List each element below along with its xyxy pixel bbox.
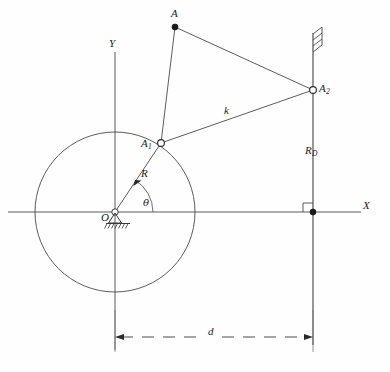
axis-group: [8, 52, 361, 350]
guide-offset-label-RD: RD: [305, 145, 317, 158]
point-label-A1-base: A: [141, 137, 148, 149]
guide-foot-marker: [310, 209, 316, 215]
x-axis-label: X: [363, 200, 370, 211]
guide-offset-label-base: R: [305, 144, 312, 156]
coupler-tip-marker-A: [172, 24, 178, 30]
crank-pin-marker-A1: [158, 140, 165, 147]
point-label-A2-base: A: [319, 82, 326, 94]
origin-label: O: [101, 212, 109, 223]
crank-link-R: [115, 143, 161, 212]
coupler-extension-A-A2: [175, 27, 313, 90]
y-axis-label: Y: [109, 38, 115, 49]
kinematic-diagram-figure: X Y O A A1 A2 R k RD d θ: [0, 0, 390, 372]
point-label-A: A: [171, 8, 178, 19]
crank-angle-label-theta: θ: [143, 198, 149, 208]
point-label-A1: A1: [141, 138, 152, 151]
center-distance-dimension: [115, 310, 313, 352]
point-label-A2-subscript: 2: [326, 87, 330, 96]
guide-offset-label-subscript: D: [312, 149, 318, 158]
coupler-link-k: [161, 90, 313, 143]
linkage-group: [115, 27, 313, 212]
crank-radius-label-R: R: [141, 168, 148, 179]
point-label-A2: A2: [319, 83, 330, 96]
coupler-extension-A1-A: [161, 27, 175, 143]
point-label-A1-subscript: 1: [148, 142, 152, 151]
diagram-canvas: [0, 0, 390, 372]
slider-pin-marker-A2: [310, 87, 317, 94]
coupler-length-label-k: k: [224, 105, 229, 116]
wall-hatching-icon: [313, 27, 322, 52]
center-distance-label-d: d: [208, 326, 214, 337]
